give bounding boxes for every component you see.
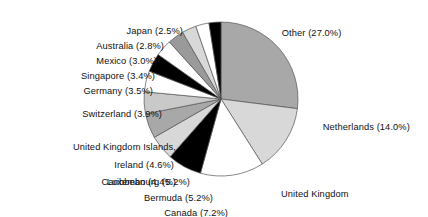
slice-label-japan-text: Japan (2.5%)	[127, 26, 184, 36]
slice-label-other: Other (27.0%)	[271, 16, 341, 51]
slice-label-japan: Japan (2.5%)	[116, 14, 183, 49]
pie-chart-figure: Other (27.0%) Netherlands (14.0%) United…	[0, 0, 428, 217]
slice-label-uk-islands-caribbean: United Kingdom Islands, Caribbean (4.4%)	[73, 119, 176, 211]
slice-label-uk-islands-line1: United Kingdom Islands,	[73, 142, 176, 154]
slice-label-netherlands-text: Netherlands (14.0%)	[323, 122, 410, 132]
slice-label-switzerland-text: Switzerland (3.9%)	[82, 109, 162, 119]
slice-label-united-kingdom: United Kingdom (13.3%)	[281, 166, 349, 217]
slice-label-uk-islands-line2: Caribbean (4.4%)	[73, 177, 176, 189]
slice-label-other-text: Other (27.0%)	[282, 28, 342, 38]
slice-label-netherlands: Netherlands (14.0%)	[312, 110, 410, 145]
slice-label-united-kingdom-line1: United Kingdom	[281, 189, 349, 201]
pie-chart-canvas	[0, 0, 428, 217]
